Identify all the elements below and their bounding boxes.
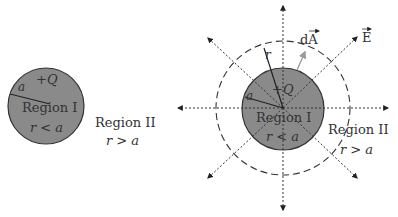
area-vector-label-group: dA	[300, 31, 319, 47]
gaussian-radius-label: r	[265, 48, 272, 62]
radius-label-a: a	[246, 89, 253, 103]
radius-label: a	[18, 80, 25, 94]
region-ii-label: Region II	[328, 122, 389, 137]
charge-label: +Q	[36, 72, 58, 87]
region-ii-condition: r > a	[340, 142, 373, 157]
region-ii-label: Region II	[95, 115, 156, 130]
left-figure: a +Q Region I r < a Region II r > a	[8, 68, 156, 148]
gauss-law-diagram: a +Q Region I r < a Region II r > a a r …	[0, 0, 398, 217]
field-label: E	[362, 30, 372, 45]
region-ii-condition: r > a	[106, 133, 139, 148]
field-label-group: E	[362, 29, 372, 45]
area-vector	[297, 52, 305, 70]
area-vector-label: dA	[300, 32, 318, 47]
charge-label: +Q	[272, 82, 294, 97]
region-i-condition: r < a	[266, 129, 299, 144]
region-i-label: Region I	[256, 110, 311, 125]
right-figure: a r +Q Region I r < a Region II r > a dA…	[178, 6, 389, 210]
region-i-label: Region I	[22, 100, 77, 115]
region-i-condition: r < a	[30, 120, 63, 135]
